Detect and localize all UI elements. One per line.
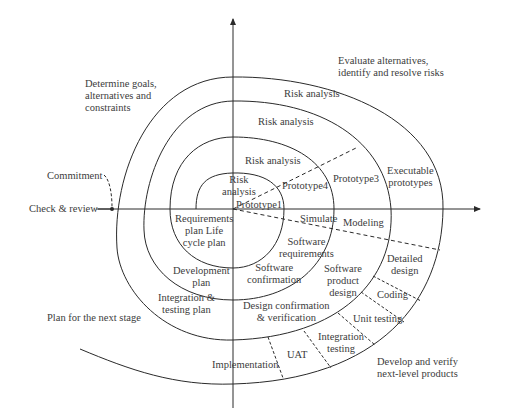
risk-analysis-second: Risk analysis: [245, 155, 301, 167]
executable-prototypes-label: Executable prototypes: [387, 165, 434, 189]
prototype3-label: Prototype3: [333, 173, 379, 185]
unit-testing-label: Unit testing: [353, 313, 402, 325]
coding-label: Coding: [377, 289, 408, 301]
dashed-divider-uat-implementation: [268, 337, 283, 378]
quadrant-label-plan-next-stage: Plan for the next stage: [47, 312, 141, 324]
integration-testing-plan-label: Integration & testing plan: [158, 292, 215, 316]
implementation-label: Implementation: [212, 359, 278, 371]
prototype1-label: Prototype1: [236, 199, 282, 211]
design-confirmation-label: Design confirmation & verification: [243, 300, 330, 324]
requirements-plan-label: Requirements plan Life cycle plan: [175, 213, 233, 249]
commitment-label: Commitment: [47, 170, 102, 182]
integration-testing-label: Integration testing: [318, 331, 364, 355]
modeling-label: Modeling: [343, 217, 384, 229]
detailed-design-label: Detailed design: [387, 253, 423, 277]
risk-analysis-inner: Risk analysis: [222, 174, 256, 198]
software-requirements-label: Software requirements: [279, 236, 334, 260]
quadrant-label-develop-verify: Develop and verify next-level products: [377, 356, 458, 380]
simulate-label: Simulate: [300, 213, 337, 225]
software-product-design-label: Software product design: [324, 263, 362, 299]
software-confirmation-label: Software confirmation: [247, 262, 301, 286]
risk-analysis-outer: Risk analysis: [284, 88, 340, 100]
prototype4-label: Prototype4: [282, 180, 328, 192]
development-plan-label: Development plan: [173, 265, 230, 289]
quadrant-label-determine-goals: Determine goals, alternatives and constr…: [85, 78, 157, 114]
check-review-label: Check & review: [29, 203, 98, 215]
risk-analysis-third: Risk analysis: [258, 116, 314, 128]
commitment-dashed-curve: [104, 175, 112, 207]
quadrant-label-evaluate-alternatives: Evaluate alternatives, identify and reso…: [338, 55, 444, 79]
uat-label: UAT: [287, 349, 307, 361]
